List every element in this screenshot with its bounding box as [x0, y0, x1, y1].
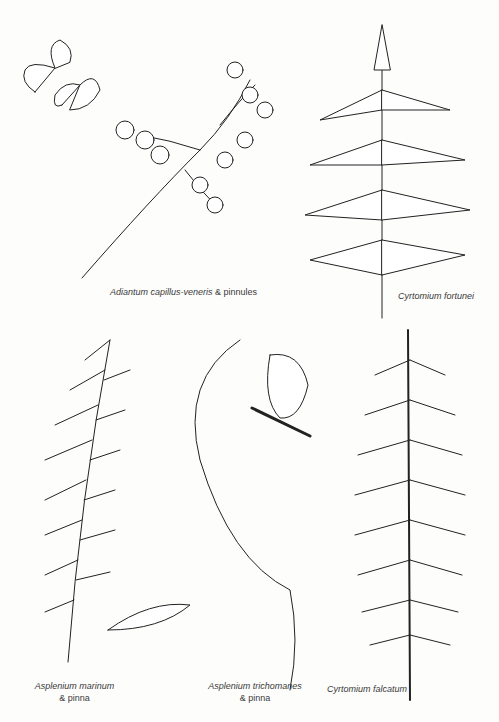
caption-cyrtomium-falcatum: Cyrtomium falcatum	[327, 683, 407, 695]
caption-asplenium-trichomanes: Asplenium trichomanes & pinna	[205, 680, 305, 704]
cyrtomium-falcatum-illustration	[355, 330, 465, 700]
caption-cyrtomium-fortunei: Cyrtomium fortunei	[398, 290, 474, 302]
fern-illustrations	[0, 0, 499, 722]
adiantum-frond-illustration	[82, 62, 273, 278]
cyrtomium-fortunei-illustration	[305, 25, 470, 318]
asplenium-marinum-illustration	[45, 340, 190, 662]
asplenium-trichomanes-illustration	[195, 340, 310, 690]
botanical-plate: Adiantum capillus-veneris & pinnules Cyr…	[0, 0, 499, 722]
caption-adiantum: Adiantum capillus-veneris & pinnules	[110, 286, 257, 298]
adiantum-pinnule-illustration	[24, 40, 100, 110]
caption-asplenium-marinum: Asplenium marinum & pinna	[22, 680, 127, 704]
